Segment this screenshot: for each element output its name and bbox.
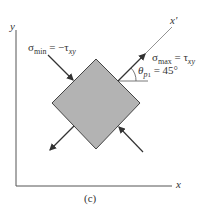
x-axis-label: x: [176, 178, 181, 190]
sigma-min-arrow-nw: [48, 55, 73, 80]
sigma-min-label: σmin = −τxy: [28, 41, 76, 56]
x-prime-label: x': [170, 14, 177, 26]
angle-arc: [131, 68, 136, 81]
stress-element-diagram: y x x' σmin = −τxy σmax = τxy θp1 = 45° …: [0, 0, 207, 215]
sigma-min-arrow-se: [119, 127, 143, 152]
figure-caption: (c): [84, 192, 96, 204]
sigma-max-arrow-sw: [50, 126, 74, 150]
y-axis-label: y: [10, 20, 15, 32]
theta-label: θp1 = 45°: [138, 64, 178, 79]
